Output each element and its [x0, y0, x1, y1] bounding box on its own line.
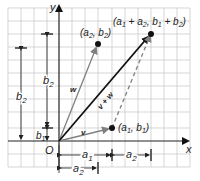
dashed-translate-w	[112, 36, 150, 128]
dimension-a1-label: a1	[82, 148, 93, 163]
point-a1-b1-label: (a1, b1)	[118, 122, 149, 134]
point-a1-b1	[109, 125, 115, 131]
x-axis-label: x	[185, 143, 192, 155]
point-sum-label: (a1 + a2, b1 + b2)	[113, 16, 186, 28]
dimension-left-b2-label: b2	[16, 90, 27, 105]
vector-v-plus-w-label: v + w	[96, 90, 116, 112]
vector-w	[59, 48, 96, 141]
dimension-b1-label: b1	[36, 130, 46, 142]
dimension-a2-right-label: a2	[126, 148, 137, 163]
dimension-mid-b2-label: b2	[43, 74, 54, 89]
point-a2-b2-label: (a2, b2)	[80, 27, 111, 39]
vector-v-label: v	[81, 128, 86, 137]
point-sum	[148, 31, 154, 37]
y-axis-label: y	[49, 1, 57, 13]
origin-label: O	[45, 144, 54, 156]
vector-diagram: x y O w v v + w (a1, b1) (a2, b2) (a1 + …	[0, 0, 200, 181]
dimension-a2-bottom-label: a2	[73, 162, 84, 177]
vector-w-label: w	[70, 85, 77, 94]
point-a2-b2	[95, 41, 101, 47]
